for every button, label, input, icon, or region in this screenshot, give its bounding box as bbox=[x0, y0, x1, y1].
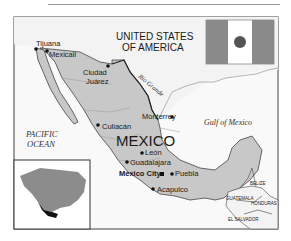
water-label-pacific-1: PACIFIC bbox=[25, 129, 58, 139]
country-label-honduras: HONDURAS bbox=[251, 201, 277, 206]
city-label-culiacan: Culiacán bbox=[102, 122, 131, 131]
city-label-guadalajara: Guadalajara bbox=[130, 158, 172, 167]
flag-emblem-icon bbox=[234, 36, 246, 48]
city-label-ciudad: Ciudad bbox=[83, 68, 107, 77]
city-label-acapulco: Acapulco bbox=[157, 185, 188, 194]
city-label-mexicali: Mexicali bbox=[49, 50, 76, 59]
city-label-monterrey: Monterrey bbox=[142, 112, 176, 121]
inset-north-america bbox=[14, 160, 90, 229]
water-label-gulf: Gulf of Mexico bbox=[204, 118, 252, 127]
city-label-juarez: Juárez bbox=[86, 77, 109, 86]
country-label-guatemala: GUATEMALA bbox=[226, 196, 253, 201]
country-label-mexico: MEXICO bbox=[116, 132, 175, 149]
city-label-tijuana: Tijuana bbox=[36, 39, 61, 48]
country-label-el-salvador: EL SALVADOR bbox=[228, 217, 259, 222]
city-label-mexico-city: Mexico City bbox=[119, 169, 162, 178]
city-label-puebla: Puebla bbox=[175, 169, 199, 178]
country-label-belize: BELIZE bbox=[250, 181, 266, 186]
mexico-flag bbox=[206, 20, 274, 64]
water-label-pacific-2: OCEAN bbox=[27, 139, 56, 149]
country-label-usa-2: OF AMERICA bbox=[122, 42, 184, 53]
country-label-usa-1: UNITED STATES bbox=[116, 31, 194, 42]
city-label-leon: León bbox=[145, 148, 162, 157]
mexico-map: Tijuana Mexicali Ciudad Juárez Monterrey… bbox=[0, 0, 291, 241]
